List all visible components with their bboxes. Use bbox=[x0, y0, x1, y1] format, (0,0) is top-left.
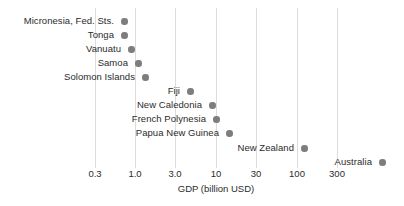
category-label: New Zealand bbox=[237, 141, 294, 155]
data-row: New Caledonia bbox=[0, 98, 404, 112]
data-row: New Zealand bbox=[0, 141, 404, 155]
data-point-marker bbox=[301, 145, 308, 152]
data-point-marker bbox=[128, 46, 135, 53]
data-point-marker bbox=[226, 130, 233, 137]
gdp-dot-plot: Micronesia, Fed. Sts. Tonga Vanuatu Samo… bbox=[0, 0, 404, 206]
data-row: Australia bbox=[0, 155, 404, 169]
data-row: Tonga bbox=[0, 28, 404, 42]
data-point-marker bbox=[187, 88, 194, 95]
data-point-marker bbox=[209, 102, 216, 109]
category-label: Australia bbox=[335, 155, 372, 169]
x-tick-label: 0.3 bbox=[88, 168, 101, 179]
category-label: French Polynesia bbox=[132, 112, 206, 126]
data-row: French Polynesia bbox=[0, 112, 404, 126]
data-row: Samoa bbox=[0, 56, 404, 70]
x-axis-title: GDP (billion USD) bbox=[178, 183, 254, 194]
data-row: Papua New Guinea bbox=[0, 126, 404, 140]
data-point-marker bbox=[121, 32, 128, 39]
data-row: Fiji bbox=[0, 84, 404, 98]
x-axis: 0.3 1.0 3.0 10 30 100 300 GDP (billion U… bbox=[0, 168, 404, 206]
data-point-marker bbox=[142, 74, 149, 81]
plot-area: Micronesia, Fed. Sts. Tonga Vanuatu Samo… bbox=[0, 0, 404, 168]
data-row: Vanuatu bbox=[0, 42, 404, 56]
category-label: Micronesia, Fed. Sts. bbox=[24, 14, 114, 28]
category-label: Samoa bbox=[98, 56, 128, 70]
data-point-marker bbox=[213, 116, 220, 123]
category-label: Vanuatu bbox=[86, 42, 121, 56]
category-label: Tonga bbox=[88, 28, 114, 42]
data-point-marker bbox=[121, 18, 128, 25]
category-label: Solomon Islands bbox=[64, 70, 135, 84]
data-row: Micronesia, Fed. Sts. bbox=[0, 14, 404, 28]
x-tick-label: 1.0 bbox=[128, 168, 141, 179]
x-tick-label: 100 bbox=[289, 168, 305, 179]
x-tick-label: 300 bbox=[329, 168, 345, 179]
x-tick-label: 30 bbox=[251, 168, 262, 179]
data-point-marker bbox=[135, 60, 142, 67]
category-label: Papua New Guinea bbox=[136, 126, 219, 140]
category-label: New Caledonia bbox=[137, 98, 202, 112]
data-row: Solomon Islands bbox=[0, 70, 404, 84]
category-label: Fiji bbox=[168, 84, 180, 98]
x-tick-label: 10 bbox=[211, 168, 222, 179]
x-tick-label: 3.0 bbox=[168, 168, 181, 179]
data-point-marker bbox=[379, 159, 386, 166]
